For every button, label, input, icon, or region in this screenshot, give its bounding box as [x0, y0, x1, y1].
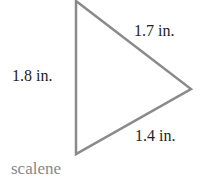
side-label-left: 1.8 in. [12, 68, 52, 84]
scalene-triangle-diagram: 1.7 in. 1.8 in. 1.4 in. scalene [0, 0, 201, 181]
side-label-top-right: 1.7 in. [134, 23, 174, 39]
triangle-type-caption: scalene [11, 160, 61, 177]
side-label-bottom-right: 1.4 in. [135, 128, 175, 144]
